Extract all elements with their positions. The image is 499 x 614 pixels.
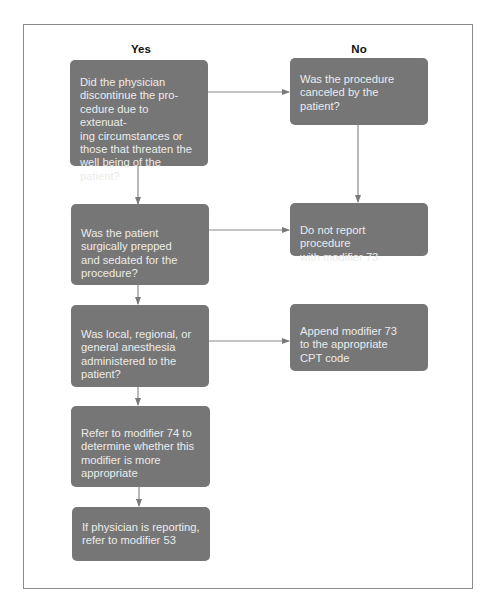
node-q-prepped: Was the patient surgically prepped and s…	[71, 204, 209, 285]
node-q-discontinued: Did the physician discontinue the pro- c…	[70, 60, 208, 166]
node-text: Was local, regional, or general anesthes…	[81, 328, 199, 382]
node-text: Was the procedure canceled by the patien…	[300, 73, 418, 113]
node-a-refer-74: Refer to modifier 74 to determine whethe…	[71, 406, 210, 487]
node-text: Did the physician discontinue the pro- c…	[80, 76, 198, 183]
node-text: Do not report procedure with modifier 73	[300, 224, 418, 264]
node-q-canceled: Was the procedure canceled by the patien…	[290, 58, 428, 125]
node-q-anesthesia: Was local, regional, or general anesthes…	[71, 305, 209, 387]
node-a-append-73: Append modifier 73 to the appropriate CP…	[290, 304, 428, 371]
node-text: If physician is reporting, refer to modi…	[82, 521, 200, 548]
node-text: Refer to modifier 74 to determine whethe…	[81, 427, 200, 481]
node-text: Was the patient surgically prepped and s…	[81, 227, 199, 281]
node-a-do-not-report: Do not report procedure with modifier 73	[290, 203, 428, 256]
node-text: Append modifier 73 to the appropriate CP…	[300, 325, 418, 365]
node-a-refer-53: If physician is reporting, refer to modi…	[72, 507, 210, 561]
